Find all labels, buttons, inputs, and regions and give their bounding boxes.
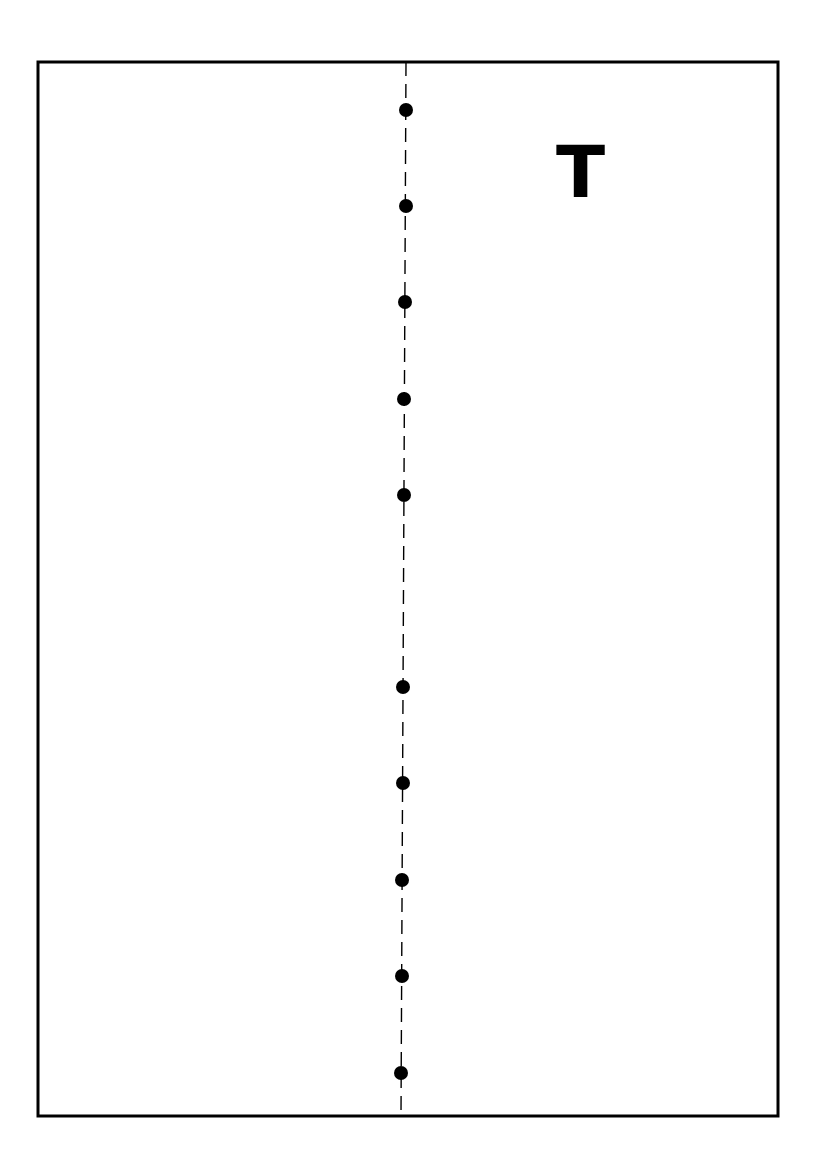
dot-marker	[396, 680, 410, 694]
dashed-center-line	[401, 62, 406, 1116]
dot-marker	[398, 295, 412, 309]
frame-border	[38, 62, 778, 1116]
dot-marker	[396, 776, 410, 790]
dot-marker	[397, 488, 411, 502]
label-t: T	[556, 138, 602, 206]
dot-marker	[399, 199, 413, 213]
dot-marker	[395, 969, 409, 983]
dot-marker	[399, 103, 413, 117]
diagram-canvas	[0, 0, 823, 1167]
dot-marker	[394, 1066, 408, 1080]
dot-marker	[397, 392, 411, 406]
dot-marker	[395, 873, 409, 887]
